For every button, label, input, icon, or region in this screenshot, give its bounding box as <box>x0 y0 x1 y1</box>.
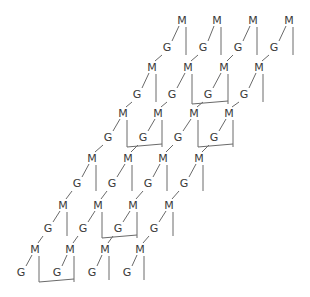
lattice-diagram-svg: MGMGMGMGMGMGMGMGMGMGMGMGMGMGMGMGMGMGMGMG… <box>0 0 310 297</box>
edge-g-to-next-m <box>95 145 103 152</box>
node-g: G <box>44 222 53 235</box>
node-g: G <box>104 131 113 144</box>
bracket-connector <box>127 144 162 147</box>
edge-g-to-next-m <box>73 236 78 243</box>
node-m: M <box>135 243 145 256</box>
edge-g-to-m <box>219 119 226 131</box>
node-m: M <box>118 107 128 120</box>
edge-g-to-next-m <box>136 191 143 199</box>
node-m: M <box>224 107 234 120</box>
edge-g-to-m <box>172 26 179 41</box>
node-g: G <box>17 266 26 279</box>
node-m: M <box>164 199 174 212</box>
node-g: G <box>210 131 219 144</box>
node-m: M <box>212 14 222 27</box>
edge-g-to-m <box>26 255 32 266</box>
edge-g-to-m <box>142 73 149 88</box>
node-m: M <box>153 107 163 120</box>
node-g: G <box>180 177 189 190</box>
edge-g-to-next-m <box>101 191 107 199</box>
node-m: M <box>189 107 199 120</box>
node-g: G <box>234 41 243 54</box>
node-m: M <box>100 243 110 256</box>
node-m: M <box>65 243 75 256</box>
node-g: G <box>199 41 208 54</box>
edge-g-to-m <box>97 255 102 266</box>
lattice-diagram: MGMGMGMGMGMGMGMGMGMGMGMGMGMGMGMGMGMGMGMG… <box>0 0 310 297</box>
node-g: G <box>144 177 153 190</box>
edge-g-to-m <box>213 73 221 88</box>
node-g: G <box>114 222 123 235</box>
edge-g-to-m <box>249 73 256 88</box>
edge-g-to-m <box>153 164 160 177</box>
node-m: M <box>254 61 264 74</box>
node-m: M <box>147 61 157 74</box>
edge-g-to-m <box>148 119 155 131</box>
edge-g-to-next-m <box>143 236 149 243</box>
edge-g-to-m <box>279 26 286 41</box>
node-m: M <box>183 61 193 74</box>
node-g: G <box>139 131 148 144</box>
node-m: M <box>194 152 204 165</box>
edge-g-to-next-m <box>166 145 173 152</box>
node-g: G <box>174 131 183 144</box>
node-g: G <box>240 88 249 101</box>
bracket-connector <box>198 144 233 147</box>
edge-g-to-m <box>189 164 196 177</box>
edge-g-to-m <box>82 164 89 177</box>
bracket-connector <box>39 279 74 282</box>
edge-g-to-m <box>62 255 67 266</box>
node-g: G <box>79 222 88 235</box>
edge-g-to-m <box>123 211 130 222</box>
node-m: M <box>123 152 133 165</box>
node-m: M <box>30 243 40 256</box>
bracket-connector <box>192 101 228 104</box>
edge-g-to-m <box>208 26 214 41</box>
edge-g-to-m <box>113 119 120 131</box>
node-g: G <box>123 266 132 279</box>
edge-g-to-m <box>132 255 137 266</box>
node-m: M <box>219 61 229 74</box>
node-g: G <box>168 88 177 101</box>
node-m: M <box>248 14 258 27</box>
edge-g-to-next-m <box>172 191 179 199</box>
node-g: G <box>163 41 172 54</box>
edge-g-to-next-m <box>66 191 72 199</box>
node-g: G <box>73 177 82 190</box>
node-g: G <box>133 88 142 101</box>
node-g: G <box>270 41 279 54</box>
bracket-connector <box>102 235 137 238</box>
node-g: G <box>53 266 62 279</box>
node-g: G <box>204 88 213 101</box>
edge-g-to-m <box>183 119 191 131</box>
edge-g-to-next-m <box>38 236 43 243</box>
node-m: M <box>87 152 97 165</box>
edge-g-to-m <box>243 26 250 41</box>
node-g: G <box>108 177 117 190</box>
node-m: M <box>177 14 187 27</box>
node-m: M <box>284 14 294 27</box>
node-m: M <box>58 199 68 212</box>
node-m: M <box>93 199 103 212</box>
node-m: M <box>158 152 168 165</box>
edge-g-to-m <box>88 211 95 222</box>
edge-g-to-m <box>159 211 166 222</box>
node-g: G <box>150 222 159 235</box>
edge-g-to-m <box>117 164 125 177</box>
node-m: M <box>128 199 138 212</box>
edge-g-to-m <box>177 73 185 88</box>
node-g: G <box>88 266 97 279</box>
edge-g-to-m <box>53 211 60 222</box>
